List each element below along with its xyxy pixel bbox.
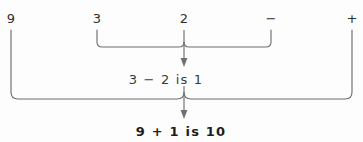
outer-arrow-head (181, 110, 188, 119)
inner-arrow-head (181, 58, 188, 67)
connector-layer (0, 0, 363, 142)
outer-brace (11, 30, 352, 99)
inner-step-result: 3 − 2 is 1 (129, 73, 204, 86)
diagram-canvas: · ·· · 9 3 2 − + 3 − 2 is 1 9 + 1 is 10 (0, 0, 363, 142)
outer-step-result: 9 + 1 is 10 (136, 125, 227, 138)
